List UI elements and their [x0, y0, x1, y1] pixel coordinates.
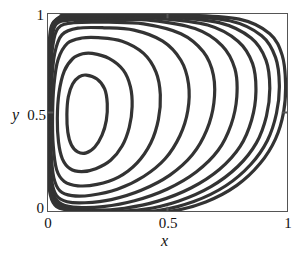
contour-streamlines-svg: [48, 14, 287, 211]
contour-line: [49, 19, 237, 207]
figure-container: 1 0.5 0 y 0 0.5 1 x: [0, 0, 307, 253]
plot-area: [47, 13, 288, 212]
y-tick-label-0.5: 0.5: [22, 108, 46, 123]
contour-line: [67, 75, 107, 153]
contour-line-group: [48, 15, 286, 211]
contour-line: [57, 53, 132, 172]
x-tick-label-0: 0: [41, 216, 55, 231]
x-tick-label-0.5: 0.5: [155, 216, 181, 231]
y-tick-label-1: 1: [26, 8, 44, 23]
contour-line: [48, 15, 279, 211]
y-tick-label-0: 0: [26, 201, 44, 216]
x-axis-title: x: [161, 233, 168, 249]
y-axis-title: y: [12, 107, 19, 123]
x-tick-label-1: 1: [281, 216, 295, 231]
